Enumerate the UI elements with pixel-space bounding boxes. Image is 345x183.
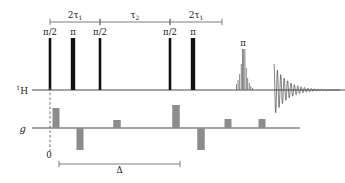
timing-bracket-tau1-second: 2τ1 bbox=[170, 10, 222, 25]
gradient-pulse-g4 bbox=[172, 105, 180, 128]
shaped-pulse-line bbox=[236, 84, 237, 90]
rf-pulse-label: π bbox=[190, 27, 196, 37]
shaped-pulse-line bbox=[244, 49, 245, 90]
fid-waveform bbox=[274, 64, 340, 113]
bracket-label: 2τ1 bbox=[68, 10, 83, 21]
rf-pulse-p3: π/2 bbox=[93, 27, 107, 91]
rf-pulse-p4: π/2 bbox=[163, 27, 177, 91]
rf-pulse-bar bbox=[169, 38, 172, 90]
timing-bracket-tau2: τ2 bbox=[100, 10, 170, 25]
shaped-pulse-line bbox=[243, 49, 244, 90]
rf-pulse-label: π/2 bbox=[43, 27, 57, 37]
shaped-pulse-line bbox=[246, 68, 247, 90]
bracket-label: τ2 bbox=[131, 10, 140, 21]
rf-pulse-p2: π bbox=[70, 27, 76, 91]
rf-pulse-p5: π bbox=[190, 27, 196, 91]
timing-bracket-delta: Δ bbox=[59, 161, 180, 175]
shaped-pulse-line bbox=[238, 80, 239, 90]
timing-brackets-top: 2τ1τ22τ1 bbox=[50, 10, 222, 25]
bracket-label: Δ bbox=[116, 165, 123, 175]
shaped-pulse-label: π bbox=[240, 38, 246, 48]
rf-pulse-bar bbox=[71, 38, 75, 90]
shaped-pulse-line bbox=[249, 83, 250, 90]
rf-pulse-bar bbox=[191, 38, 195, 90]
origin-label: 0 bbox=[46, 150, 51, 160]
channel-labels: 1Hg bbox=[16, 84, 28, 134]
gradient-pulse-g2 bbox=[77, 128, 84, 150]
shaped-pulse-line bbox=[252, 88, 253, 90]
shaped-pulse-line bbox=[242, 49, 243, 90]
pulse-sequence-svg: 1Hg2τ1τ22τ1π/2ππ/2π/2ππ0Δ bbox=[0, 0, 345, 183]
fid-acquisition bbox=[274, 64, 340, 113]
gradient-pulse-g1 bbox=[53, 108, 60, 128]
rf-pulse-label: π/2 bbox=[163, 27, 177, 37]
rf-pulse-p1: π/2 bbox=[43, 27, 57, 91]
origin-marker: 0 bbox=[46, 88, 51, 160]
timing-brackets-bottom: Δ bbox=[59, 161, 180, 175]
bracket-label: 2τ1 bbox=[189, 10, 204, 21]
shaped-pulse-line bbox=[239, 74, 240, 90]
rf-pulse-bar bbox=[49, 38, 52, 90]
shaped-pulse-line bbox=[247, 78, 248, 90]
rf-pulse-label: π bbox=[70, 27, 76, 37]
shaped-pulse-line bbox=[241, 64, 242, 90]
rf-pulses: π/2ππ/2π/2π bbox=[43, 27, 196, 91]
pulse-sequence-figure: 1Hg2τ1τ22τ1π/2ππ/2π/2ππ0Δ bbox=[0, 0, 345, 183]
gradient-pulse-g7 bbox=[259, 119, 266, 128]
rf-pulse-bar bbox=[99, 38, 102, 90]
channel-axes bbox=[32, 90, 345, 128]
gradient-pulse-g5 bbox=[197, 128, 205, 150]
timing-bracket-tau1-first: 2τ1 bbox=[50, 10, 100, 25]
shaped-pulse-line bbox=[250, 86, 251, 90]
gradient-channel-label: g bbox=[20, 123, 26, 134]
rf-channel-label: 1H bbox=[16, 84, 28, 96]
rf-pulse-label: π/2 bbox=[93, 27, 107, 37]
gradient-pulse-g6 bbox=[225, 119, 232, 128]
shaped-pulse-selective-pi: π bbox=[236, 38, 253, 90]
gradient-pulse-g3 bbox=[113, 120, 121, 128]
